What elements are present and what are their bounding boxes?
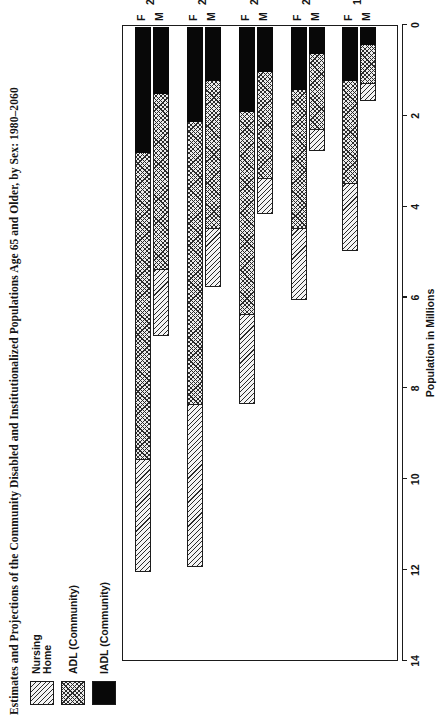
legend-item-iadl: IADL (Community) (92, 582, 116, 705)
category-label-sex-f-2040: F (187, 15, 199, 21)
bar-segment-nursing-home (360, 83, 376, 101)
x-tick-label: 10 (409, 473, 421, 485)
x-tick-label: 14 (409, 655, 421, 667)
category-label-sex-m-2040: M (205, 12, 217, 21)
bar-1980-f (342, 27, 358, 660)
bar-segment-iadl (360, 27, 376, 45)
x-tick-label: 6 (409, 295, 421, 301)
x-tick-label: 12 (409, 564, 421, 576)
bar-segment-iadl (342, 27, 358, 81)
bar-1980-m (360, 27, 376, 660)
category-label-year-2060: 2060 (144, 0, 156, 5)
category-label-sex-f-2060: F (135, 15, 147, 21)
category-label-year-1980: 1980 (351, 0, 363, 5)
bar-segment-nursing-home (239, 314, 255, 404)
bar-segment-nursing-home (342, 183, 358, 251)
x-tick-label: 4 (409, 204, 421, 210)
category-label-year-2000: 2000 (300, 0, 312, 5)
x-tick (402, 206, 407, 207)
bar-segment-nursing-home (257, 178, 273, 214)
bar-segment-iadl (309, 27, 325, 54)
bar-2060-m (153, 27, 169, 660)
category-label-sex-f-2000: F (291, 15, 303, 21)
bar-segment-adl (187, 121, 203, 406)
bar-segment-adl (135, 152, 151, 459)
legend-item-nursing-home: Nursing Home (30, 582, 54, 705)
x-tick (402, 660, 407, 661)
bar-segment-adl (205, 80, 221, 229)
category-label-sex-m-1980: M (360, 12, 372, 21)
x-tick-label: 0 (409, 22, 421, 28)
plot-area (122, 25, 398, 661)
bar-2060-f (135, 27, 151, 660)
bar-segment-nursing-home (205, 228, 221, 287)
bar-segment-iadl (187, 27, 203, 122)
chart-legend: Nursing Home ADL (Community) IADL (Commu… (30, 582, 116, 705)
x-axis-title: Population in Millions (424, 25, 436, 661)
bar-2020-m (257, 27, 273, 660)
category-label-year-2040: 2040 (196, 0, 208, 5)
legend-swatch-nursing-home-icon (30, 681, 54, 705)
bar-segment-adl (342, 80, 358, 184)
bar-2040-m (205, 27, 221, 660)
legend-label-nursing-home: Nursing Home (31, 634, 52, 674)
x-tick (402, 24, 407, 25)
bar-segment-nursing-home (187, 404, 203, 567)
bar-2040-f (187, 27, 203, 660)
rotated-figure-canvas: Estimates and Projections of the Communi… (0, 0, 447, 721)
bar-segment-adl (239, 111, 255, 314)
category-label-year-2020: 2020 (248, 0, 260, 5)
category-label-sex-f-1980: F (342, 15, 354, 21)
bar-2000-m (309, 27, 325, 660)
category-label-sex-f-2020: F (239, 15, 251, 21)
x-tick (402, 569, 407, 570)
category-label-sex-m-2000: M (309, 12, 321, 21)
legend-item-adl: ADL (Community) (61, 582, 85, 705)
category-label-sex-m-2060: M (153, 12, 165, 21)
bar-segment-adl (360, 44, 376, 85)
bar-segment-nursing-home (153, 269, 169, 337)
bar-segment-nursing-home (291, 228, 307, 300)
bar-segment-iadl (205, 27, 221, 81)
bar-segment-adl (291, 89, 307, 229)
bar-segment-iadl (153, 27, 169, 95)
x-tick (402, 387, 407, 388)
bar-segment-nursing-home (309, 129, 325, 152)
figure-title: Estimates and Projections of the Communi… (8, 3, 20, 715)
bar-segment-iadl (239, 27, 255, 113)
legend-label-iadl: IADL (Community) (99, 582, 110, 674)
x-tick (402, 296, 407, 297)
bar-segment-iadl (135, 27, 151, 154)
legend-swatch-iadl-icon (92, 681, 116, 705)
bar-segment-nursing-home (135, 459, 151, 572)
bars-layer (124, 27, 397, 660)
bar-2020-f (239, 27, 255, 660)
bar-segment-iadl (257, 27, 273, 72)
x-axis-line (402, 25, 403, 661)
bar-segment-adl (309, 53, 325, 130)
x-tick-label: 2 (409, 113, 421, 119)
bar-segment-adl (257, 71, 273, 179)
category-label-sex-m-2020: M (257, 12, 269, 21)
x-tick-label: 8 (409, 386, 421, 392)
bar-segment-adl (153, 93, 169, 269)
x-tick (402, 115, 407, 116)
bar-segment-iadl (291, 27, 307, 90)
bar-2000-f (291, 27, 307, 660)
legend-label-adl: ADL (Community) (68, 585, 79, 674)
legend-swatch-adl-icon (61, 681, 85, 705)
x-tick (402, 478, 407, 479)
